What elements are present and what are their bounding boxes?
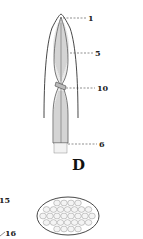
granule — [43, 207, 50, 213]
granule — [85, 207, 92, 213]
granule — [64, 220, 71, 226]
granule — [89, 213, 96, 219]
granule — [68, 226, 75, 232]
granule — [43, 220, 50, 226]
label-1: 1 — [88, 13, 94, 23]
granule — [78, 220, 85, 226]
granule — [61, 226, 68, 232]
granule — [68, 213, 75, 219]
granule — [50, 220, 57, 226]
granule — [40, 213, 47, 219]
panel-label: D — [72, 156, 85, 174]
granule — [82, 213, 89, 219]
granule — [61, 213, 68, 219]
label-15: 15 — [0, 195, 10, 205]
granule — [68, 200, 75, 206]
granule — [71, 220, 78, 226]
granule — [57, 220, 64, 226]
granule — [78, 207, 85, 213]
label-16: 16 — [5, 228, 17, 238]
granule — [85, 220, 92, 226]
granule — [61, 200, 68, 206]
granule — [75, 226, 82, 232]
label-10: 10 — [97, 83, 109, 93]
granule — [54, 200, 61, 206]
granule — [54, 226, 61, 232]
label-6: 6 — [99, 139, 105, 149]
granule — [75, 200, 82, 206]
granule — [54, 213, 61, 219]
diagram-canvas: 1 5 10 6 D 15 16 — [0, 0, 143, 239]
granule — [50, 207, 57, 213]
granule — [47, 213, 54, 219]
granule — [75, 213, 82, 219]
granule — [57, 207, 64, 213]
base-segment — [54, 143, 67, 153]
granule — [71, 207, 78, 213]
label-5: 5 — [95, 48, 101, 58]
granule — [64, 207, 71, 213]
